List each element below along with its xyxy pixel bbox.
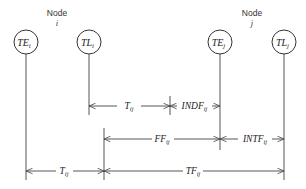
node-i-title: Node — [47, 8, 68, 18]
dimension-tf-ij: TFij — [104, 166, 284, 177]
network-float-diagram: Node i Node j TEi TLi TEj TLj Tij INDFij — [0, 0, 306, 189]
event-te-i: TEi — [14, 30, 38, 54]
dimension-ff-ij: FFij — [104, 134, 220, 145]
event-tl-j: TLj — [272, 30, 296, 54]
node-i-subscript: i — [56, 18, 59, 28]
dimension-intf-ij: INTFij — [220, 134, 284, 145]
t-ij-bottom-label: Tij — [60, 166, 69, 177]
dimension-indf-ij: INDFij — [170, 101, 220, 112]
node-j-title: Node — [242, 8, 263, 18]
intf-ij-label: INTFij — [242, 134, 267, 145]
node-label-i: Node i — [47, 8, 68, 28]
indf-ij-label: INDFij — [181, 101, 208, 112]
t-ij-top-label: Tij — [125, 101, 134, 112]
event-tl-i: TLi — [77, 30, 101, 54]
tf-ij-label: TFij — [186, 166, 201, 177]
ff-ij-label: FFij — [153, 134, 169, 145]
node-j-subscript: j — [250, 18, 254, 28]
dimension-t-ij-bottom: Tij — [26, 166, 104, 177]
node-label-j: Node j — [242, 8, 263, 28]
dimension-t-ij-top: Tij — [89, 101, 170, 112]
event-te-j: TEj — [208, 30, 232, 54]
